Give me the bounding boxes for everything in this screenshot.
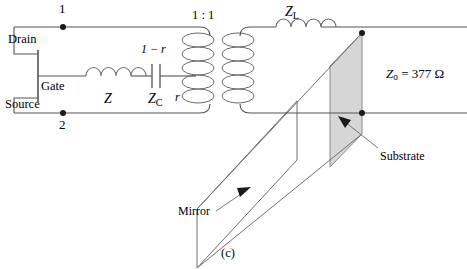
series-capacitor-symbol: Z [148, 91, 156, 106]
secondary-top-lead [240, 27, 276, 36]
load-inductor-label: ZL [285, 5, 299, 21]
transformer-tap-upper-label: 1 − r [141, 43, 166, 55]
node-1-dot [60, 24, 66, 30]
transformer-ratio-label: 1 : 1 [192, 9, 214, 22]
impedance-value: 377 [412, 66, 432, 81]
circuit-figure-c: 1 2 Drain Gate Source Z ZC 1 : 1 1 − r r… [0, 0, 467, 269]
impedance-unit: Ω [435, 66, 445, 81]
node-2-label: 2 [59, 118, 66, 131]
transformer-tap-lower-label: r [175, 91, 180, 103]
transformer-primary-winding [182, 33, 214, 103]
substrate-label: Substrate [380, 150, 425, 162]
series-capacitor-subscript: C [156, 97, 163, 108]
series-capacitor-label: ZC [148, 92, 163, 108]
load-inductor-subscript: L [293, 10, 299, 21]
mirror-label: Mirror [178, 205, 210, 217]
primary-bottom-lead [200, 104, 210, 113]
impedance-equals: = [398, 66, 412, 81]
circuit-schematic-canvas [0, 0, 467, 269]
figure-caption: (c) [221, 247, 235, 260]
transformer-secondary-winding [222, 33, 254, 103]
series-inductor-coil [86, 68, 146, 77]
output-impedance-label: Zo = 377 Ω [386, 67, 444, 83]
substrate-bottom-terminal-dot [359, 110, 365, 116]
series-inductor-label: Z [104, 92, 112, 106]
source-terminal-label: Source [5, 98, 40, 111]
gate-terminal-label: Gate [41, 80, 65, 93]
load-inductor-symbol: Z [285, 4, 293, 19]
substrate-top-terminal-dot [359, 30, 365, 36]
node-2-dot [60, 110, 66, 116]
drain-terminal-label: Drain [8, 33, 36, 46]
mirror-plane [197, 101, 297, 268]
node-1-label: 1 [59, 2, 66, 15]
